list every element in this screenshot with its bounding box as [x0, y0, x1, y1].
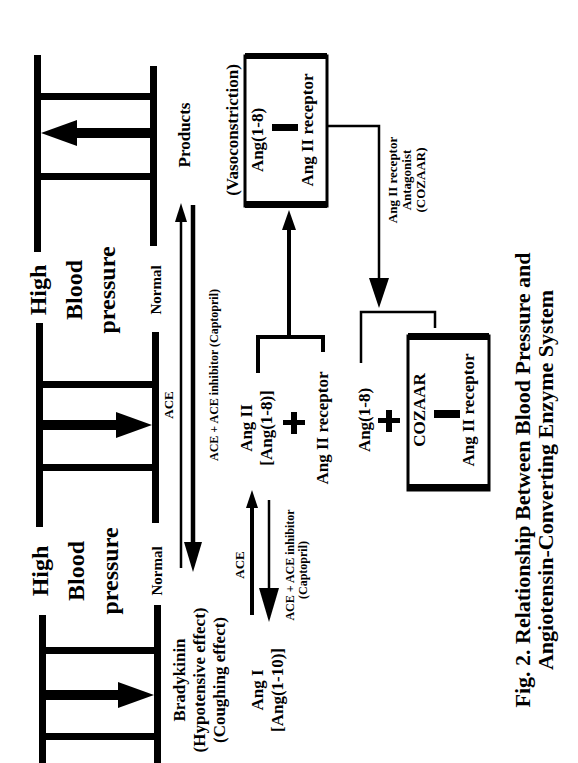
- receptor-label: Ang II receptor: [298, 73, 317, 186]
- ace-inhibitor-label: ACE + ACE inhibitor (Captopril): [207, 289, 221, 461]
- ang18-label: Ang(1-8): [355, 388, 374, 452]
- pressure-label: pressure: [97, 527, 123, 614]
- pressure-label: pressure: [94, 246, 120, 333]
- bradykinin-node: Bradykinin (Hypotensive effect) (Coughin…: [170, 608, 229, 753]
- bradykinin-products-reaction: ACE ACE + ACE inhibitor (Captopril): [161, 203, 221, 572]
- arrow-up-icon: [246, 490, 258, 508]
- binding-bar: [434, 410, 460, 418]
- ang1-node: Ang I [Ang(1-10)]: [248, 648, 287, 732]
- plus-icon: [378, 410, 400, 432]
- gauge-rung: [39, 647, 161, 654]
- arrow-down-icon: [259, 588, 279, 622]
- increase-arrow-icon: [46, 682, 154, 708]
- ace-label: ACE: [161, 391, 176, 418]
- vasoconstriction-complex: (Vasoconstriction) Ang(1-8) Ang II recep…: [223, 53, 327, 208]
- ang1-label: Ang I: [248, 669, 267, 710]
- blood-pressure-gauge-top: [34, 55, 157, 252]
- ang2-node: Ang II [Ang(1-8)] Ang II receptor: [237, 210, 332, 485]
- plus-icon: [283, 412, 305, 434]
- gauge-high-rail: [39, 615, 46, 763]
- bradykinin-label: Bradykinin: [170, 638, 189, 722]
- antagonist-pathway: Ang II receptor Antagonist (COZAAR): [327, 126, 428, 308]
- high-label: High: [27, 546, 53, 597]
- ang18-label: Ang(1-8): [248, 108, 267, 172]
- ace-label: ACE: [232, 551, 247, 578]
- products-label: Products: [175, 102, 194, 167]
- ang2-receptor-label: Ang II receptor: [313, 371, 332, 484]
- gauge-rung: [36, 381, 159, 388]
- ace-inhibitor-label: ACE + ACE inhibitor: [283, 509, 297, 621]
- ang2-formula: [Ang(1-8)]: [257, 390, 276, 466]
- gauge-normal-rail: [152, 332, 159, 523]
- figure-caption: Fig. 2. Relationship Between Blood Press…: [510, 252, 558, 707]
- high-label: High: [25, 265, 51, 316]
- blood-pressure-gauge-bottom: [39, 605, 161, 763]
- gauge-high-rail: [36, 323, 43, 527]
- normal-label: Normal: [149, 546, 165, 595]
- blood-label: Blood: [63, 540, 89, 601]
- decrease-arrow-icon: [41, 120, 152, 146]
- vasoconstriction-label: (Vasoconstriction): [223, 64, 242, 196]
- antagonist-line2: Antagonist: [399, 149, 414, 210]
- normal-label: Normal: [148, 265, 164, 314]
- gauge-high-rail: [34, 55, 41, 252]
- arrow-down-icon: [184, 542, 202, 572]
- arrow-down-icon: [369, 278, 389, 308]
- blocked-complex: Ang(1-8) COZAAR Ang II receptor: [355, 312, 489, 491]
- receptor-label: Ang II receptor: [459, 353, 478, 466]
- gauge-rung: [34, 173, 157, 180]
- captopril-label: (Captopril): [296, 541, 310, 599]
- gauge-rung: [39, 733, 161, 740]
- upper-gauge-labels: High Blood pressure Normal: [25, 246, 164, 333]
- hypotensive-effect-label: (Hypotensive effect): [190, 608, 209, 753]
- blood-label: Blood: [61, 259, 87, 320]
- antagonist-line3: (COZAAR): [413, 148, 428, 213]
- ace-blood-pressure-diagram: High Blood pressure Normal High Blood pr…: [0, 0, 578, 763]
- ang1-formula: [Ang(1-10)]: [268, 648, 287, 732]
- antagonist-line1: Ang II receptor: [385, 137, 400, 224]
- blood-pressure-gauge-middle: [36, 323, 159, 527]
- ang2-label: Ang II: [237, 404, 256, 452]
- caption-line1: Fig. 2. Relationship Between Blood Press…: [510, 252, 535, 707]
- coughing-effect-label: (Coughing effect): [210, 617, 229, 743]
- caption-line2: Angiotensin-Converting Enzyme System: [533, 290, 558, 670]
- arrow-up-icon: [175, 203, 187, 222]
- bracket: [258, 337, 323, 373]
- cozaar-label: COZAAR: [410, 372, 429, 446]
- ang1-ang2-reaction: ACE ACE + ACE inhibitor (Captopril): [232, 490, 310, 622]
- gauge-rung: [34, 93, 157, 100]
- binding-bar: [272, 124, 298, 131]
- arrow-up-icon: [282, 210, 296, 230]
- increase-arrow-icon: [43, 412, 152, 438]
- gauge-rung: [36, 464, 159, 471]
- lower-gauge-labels: High Blood pressure Normal: [27, 527, 165, 614]
